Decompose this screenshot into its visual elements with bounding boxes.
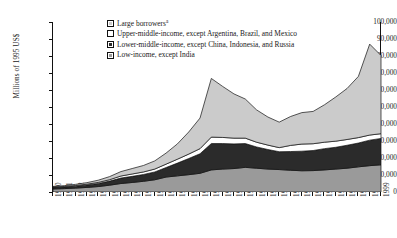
legend-label: Upper-middle-income, except Argentina, B… [117, 30, 297, 37]
legend-swatch-icon [107, 41, 114, 48]
legend-label: Lower-middle-income, except China, Indon… [117, 41, 294, 48]
legend-swatch-icon [107, 30, 114, 37]
x-tick-mark [86, 192, 87, 196]
x-tick-mark [290, 192, 291, 196]
legend-footnote-marker: a [166, 18, 168, 24]
stacked-area-chart: Millions of 1995 US$ 010,00020,00030,000… [0, 0, 397, 238]
x-tick-mark [233, 192, 234, 196]
x-tick-mark [267, 192, 268, 196]
x-tick-mark [222, 192, 223, 196]
legend-item-low-income: Low-income, except India [107, 50, 297, 61]
x-tick-mark [335, 192, 336, 196]
legend-swatch-fill [109, 32, 112, 35]
x-tick-mark [52, 192, 53, 196]
x-tick-mark [165, 192, 166, 196]
legend-swatch-icon [107, 52, 114, 59]
x-tick-mark [380, 192, 381, 196]
x-tick-mark [75, 192, 76, 196]
legend-item-lower-middle-income: Lower-middle-income, except China, Indon… [107, 39, 297, 50]
legend-swatch-icon [107, 20, 114, 27]
x-tick-mark [188, 192, 189, 196]
x-tick-mark [154, 192, 155, 196]
x-tick-mark [256, 192, 257, 196]
legend-swatch-fill [109, 22, 112, 25]
x-tick-label: 1999 [383, 182, 390, 197]
legend-item-large-borrowers: Large borrowersa [107, 18, 297, 29]
chart-legend: Large borrowersaUpper-middle-income, exc… [107, 18, 297, 60]
x-tick-mark [199, 192, 200, 196]
legend-label: Large borrowersa [117, 18, 168, 28]
y-axis-title: Millions of 1995 US$ [13, 11, 21, 121]
legend-item-upper-middle-income: Upper-middle-income, except Argentina, B… [107, 29, 297, 40]
legend-swatch-fill [109, 54, 112, 57]
x-tick-mark [312, 192, 313, 196]
legend-label: Low-income, except India [117, 51, 195, 58]
legend-swatch-fill [109, 43, 112, 46]
x-tick-mark [301, 192, 302, 196]
x-tick-mark [369, 192, 370, 196]
x-tick-mark [109, 192, 110, 196]
x-tick-mark [346, 192, 347, 196]
x-tick-mark [120, 192, 121, 196]
